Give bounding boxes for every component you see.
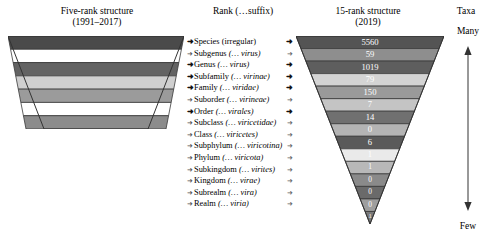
rank-right-arrow-icon: ➜ bbox=[285, 71, 294, 83]
taxa-axis-bottom-label: Few bbox=[440, 221, 496, 231]
fifteen-rank-band-count: 0 bbox=[296, 125, 444, 134]
rank-left-arrow-icon: ➜ bbox=[186, 94, 194, 106]
rank-right-arrow-icon: ➜ bbox=[285, 129, 294, 141]
rank-suffix: (… virales) bbox=[216, 107, 254, 116]
rank-left-arrow-icon: ➜ bbox=[186, 117, 194, 129]
taxa-axis: Many Few bbox=[440, 26, 496, 231]
rank-name-text: Family bbox=[194, 83, 218, 92]
fifteen-rank-band-count: 1 bbox=[296, 213, 444, 219]
five-rank-band bbox=[21, 102, 171, 115]
rank-right-arrow-icon: ➜ bbox=[285, 164, 294, 176]
rank-name-text: Class bbox=[194, 130, 212, 139]
rank-right-arrow-icon: ➜ bbox=[285, 175, 294, 187]
rank-left-arrow-icon: ➜ bbox=[186, 164, 194, 176]
rank-left-arrow-icon: ➜ bbox=[186, 71, 194, 83]
rank-name-text: Subclass bbox=[194, 118, 223, 127]
taxa-axis-title: Taxa bbox=[438, 6, 494, 17]
rank-suffix: (… viricotina) bbox=[235, 141, 283, 150]
five-rank-band bbox=[13, 63, 179, 76]
rank-left-arrow-icon: ➜ bbox=[186, 106, 194, 118]
rank-row[interactable]: ➜Subfamily (… virinae)➜ bbox=[186, 71, 298, 83]
rank-name: Class (… viricetes) bbox=[194, 129, 258, 141]
rank-row[interactable]: ➜Subrealm (… vira)➜ bbox=[186, 187, 298, 199]
rank-suffix: (… virineae) bbox=[227, 95, 270, 104]
rank-label-list: ➜Species (irregular)➜➜Subgenus (… virus)… bbox=[186, 36, 298, 210]
rank-right-arrow-icon: ➜ bbox=[285, 82, 294, 94]
fifteen-rank-band-count: 0 bbox=[296, 176, 444, 183]
rank-name-text: Realm bbox=[194, 199, 216, 208]
fifteen-rank-band-count: 0 bbox=[296, 188, 444, 195]
fifteen-rank-band-count: 1 bbox=[296, 150, 444, 159]
rank-left-arrow-icon: ➜ bbox=[186, 48, 194, 60]
rank-name: Species (irregular) bbox=[194, 36, 256, 48]
five-rank-band bbox=[11, 49, 182, 62]
rank-suffix: (… viridae) bbox=[220, 83, 259, 92]
rank-name-text: Subgenus bbox=[194, 49, 227, 58]
rank-row[interactable]: ➜Realm (… viria)➜ bbox=[186, 198, 298, 210]
five-rank-band bbox=[23, 116, 168, 129]
rank-column-title: Rank (…suffix) bbox=[188, 6, 298, 17]
right-structure-title-line2: (2019) bbox=[298, 17, 438, 28]
rank-row[interactable]: ➜Class (… viricetes)➜ bbox=[186, 129, 298, 141]
rank-suffix: (… virus) bbox=[229, 49, 261, 58]
rank-suffix: (… vira) bbox=[228, 188, 257, 197]
rank-name: Subclass (… viricetidae) bbox=[194, 117, 276, 129]
rank-name: Subrealm (… vira) bbox=[194, 187, 257, 199]
rank-row[interactable]: ➜Order (… virales)➜ bbox=[186, 106, 298, 118]
rank-name: Subphylum (… viricotina) bbox=[194, 140, 282, 152]
right-structure-title-line1: 15-rank structure bbox=[298, 6, 438, 17]
rank-row[interactable]: ➜Species (irregular)➜ bbox=[186, 36, 298, 48]
fifteen-rank-band-count: 0 bbox=[296, 201, 444, 208]
rank-name: Kingdom (… virae) bbox=[194, 175, 260, 187]
rank-name: Subfamily (… virinae) bbox=[194, 71, 270, 83]
rank-name: Order (… virales) bbox=[194, 106, 254, 118]
rank-name-text: Subrealm bbox=[194, 188, 226, 197]
rank-suffix: (… viricetes) bbox=[214, 130, 258, 139]
rank-row[interactable]: ➜Subkingdom (… virites)➜ bbox=[186, 164, 298, 176]
rank-row[interactable]: ➜Subgenus (… virus)➜ bbox=[186, 48, 298, 60]
diagram-canvas: Five-rank structure (1991–2017) Rank (…s… bbox=[0, 0, 496, 231]
fifteen-rank-funnel: 55605910197915071406110001 bbox=[296, 36, 444, 224]
rank-name: Suborder (… virineae) bbox=[194, 94, 269, 106]
right-structure-title: 15-rank structure (2019) bbox=[298, 6, 438, 28]
rank-name: Realm (… viria) bbox=[194, 198, 249, 210]
rank-suffix: (… virus) bbox=[218, 60, 250, 69]
rank-suffix: (… viria) bbox=[218, 199, 249, 208]
rank-row[interactable]: ➜Subclass (… viricetidae)➜ bbox=[186, 117, 298, 129]
fifteen-rank-band-count: 59 bbox=[296, 50, 444, 59]
rank-right-arrow-icon: ➜ bbox=[285, 198, 294, 210]
rank-left-arrow-icon: ➜ bbox=[186, 82, 194, 94]
rank-right-arrow-icon: ➜ bbox=[285, 59, 294, 71]
rank-left-arrow-icon: ➜ bbox=[186, 187, 194, 199]
rank-row[interactable]: ➜Family (… viridae)➜ bbox=[186, 82, 298, 94]
rank-name-text: Subphylum bbox=[194, 141, 233, 150]
five-rank-band bbox=[8, 36, 184, 49]
rank-right-arrow-icon: ➜ bbox=[285, 117, 294, 129]
rank-name-text: Subfamily bbox=[194, 72, 229, 81]
rank-suffix: (… viricota) bbox=[222, 153, 263, 162]
rank-name-text: Phylum bbox=[194, 153, 220, 162]
left-structure-title-line1: Five-rank structure bbox=[12, 6, 182, 17]
rank-row[interactable]: ➜Kingdom (… virae)➜ bbox=[186, 175, 298, 187]
five-rank-funnel bbox=[8, 36, 184, 129]
rank-row[interactable]: ➜Subphylum (… viricotina)➜ bbox=[186, 140, 298, 152]
rank-right-arrow-icon: ➜ bbox=[285, 152, 294, 164]
fifteen-rank-band-count: 150 bbox=[296, 88, 444, 97]
rank-row[interactable]: ➜Genus (… virus)➜ bbox=[186, 59, 298, 71]
rank-name-text: Kingdom bbox=[194, 176, 226, 185]
fifteen-rank-band-count: 14 bbox=[296, 113, 444, 122]
rank-suffix: (… virites) bbox=[239, 165, 275, 174]
rank-right-arrow-icon: ➜ bbox=[285, 106, 294, 118]
left-structure-title-line2: (1991–2017) bbox=[12, 17, 182, 28]
rank-right-arrow-icon: ➜ bbox=[285, 140, 294, 152]
fifteen-rank-band-count: 5560 bbox=[296, 38, 444, 47]
left-structure-title: Five-rank structure (1991–2017) bbox=[12, 6, 182, 28]
rank-name: Subgenus (… virus) bbox=[194, 48, 261, 60]
fifteen-rank-band-count: 7 bbox=[296, 100, 444, 109]
rank-row[interactable]: ➜Suborder (… virineae)➜ bbox=[186, 94, 298, 106]
rank-left-arrow-icon: ➜ bbox=[186, 175, 194, 187]
rank-row[interactable]: ➜Phylum (… viricota)➜ bbox=[186, 152, 298, 164]
rank-suffix: (… virae) bbox=[228, 176, 260, 185]
rank-name: Phylum (… viricota) bbox=[194, 152, 263, 164]
rank-name-text: Species bbox=[194, 37, 220, 46]
